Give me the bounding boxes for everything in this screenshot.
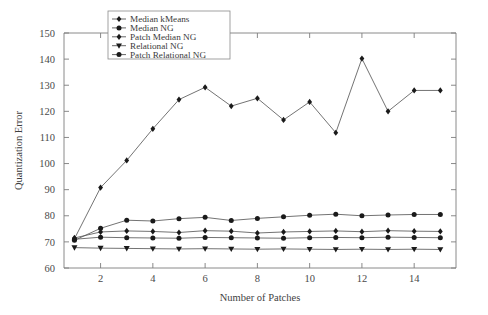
x-tick-label-14: 14 [409, 273, 420, 284]
x-tick-label-8: 8 [255, 273, 260, 284]
data-point [360, 55, 365, 61]
data-point [386, 212, 391, 217]
data-point [255, 95, 260, 101]
y-tick-label-70: 70 [45, 237, 56, 248]
data-point [72, 237, 77, 242]
y-tick-label-150: 150 [39, 28, 55, 39]
data-point [229, 218, 234, 223]
legend-marker-icon [117, 52, 122, 57]
data-point [229, 228, 234, 234]
data-point [229, 103, 234, 109]
data-point [255, 216, 260, 221]
x-tick-label-10: 10 [304, 273, 315, 284]
data-point [150, 219, 155, 224]
data-point [333, 212, 338, 217]
series-median-ng [72, 235, 443, 242]
data-point [438, 87, 443, 93]
data-point [412, 228, 417, 234]
data-point [307, 228, 312, 234]
series-relational-ng [71, 245, 443, 252]
series-path [74, 59, 440, 239]
data-point [438, 235, 443, 240]
data-point [412, 212, 417, 217]
data-point [307, 235, 312, 240]
data-point [281, 236, 286, 241]
data-point [281, 229, 286, 235]
data-point [124, 218, 129, 223]
y-tick-label-140: 140 [39, 54, 55, 65]
data-point [203, 84, 208, 90]
y-tick-label-80: 80 [45, 210, 56, 221]
data-point [124, 228, 129, 234]
data-point [412, 235, 417, 240]
y-tick-label-130: 130 [39, 80, 55, 91]
y-axis-title: Quantization Error [13, 110, 24, 190]
data-point [360, 229, 365, 235]
plot-axes: 607080901001101201301401502468101214 [39, 28, 456, 284]
legend-marker-icon [117, 25, 122, 30]
quantization-error-line-chart: 607080901001101201301401502468101214 Med… [0, 0, 488, 315]
chart-legend: Median kMeansMedian NGPatch Median NGRel… [108, 11, 230, 60]
data-point [255, 230, 260, 236]
chart-figure: 607080901001101201301401502468101214 Med… [0, 0, 488, 315]
data-point [98, 235, 103, 240]
data-point [359, 213, 364, 218]
x-axis-title: Number of Patches [220, 292, 300, 303]
y-tick-label-120: 120 [39, 106, 55, 117]
data-point [386, 108, 391, 114]
y-tick-label-90: 90 [45, 184, 56, 195]
x-tick-label-12: 12 [357, 273, 368, 284]
data-point [229, 235, 234, 240]
data-point [281, 214, 286, 219]
x-tick-label-2: 2 [98, 273, 103, 284]
data-point [438, 228, 443, 234]
data-point [203, 228, 208, 234]
data-point [150, 228, 155, 234]
x-tick-label-6: 6 [202, 273, 207, 284]
data-point [412, 87, 417, 93]
y-tick-label-100: 100 [39, 158, 55, 169]
y-tick-label-110: 110 [40, 132, 55, 143]
data-point [150, 235, 155, 240]
data-point [359, 235, 364, 240]
data-point [281, 117, 286, 123]
data-point [176, 236, 181, 241]
data-point [333, 228, 338, 234]
data-point [386, 228, 391, 234]
x-tick-label-4: 4 [150, 273, 156, 284]
data-point [177, 229, 182, 235]
plot-series [71, 55, 443, 252]
data-point [124, 235, 129, 240]
data-point [307, 213, 312, 218]
data-point [438, 212, 443, 217]
data-point [203, 215, 208, 220]
data-point [386, 235, 391, 240]
data-point [176, 216, 181, 221]
data-point [255, 235, 260, 240]
data-point [333, 235, 338, 240]
legend-label: Patch Relational NG [130, 50, 206, 60]
y-tick-label-60: 60 [45, 263, 56, 274]
data-point [203, 235, 208, 240]
